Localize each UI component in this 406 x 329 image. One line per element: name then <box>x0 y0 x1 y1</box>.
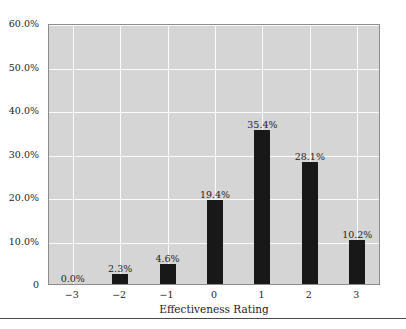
bar-chart-figure: 010.0%20.0%30.0%40.0%50.0%60.0% 0.0%2.3%… <box>0 0 406 329</box>
gridline-horizontal <box>49 112 379 113</box>
bar-value-label: 28.1% <box>287 152 333 162</box>
y-axis-tick-label: 40.0% <box>9 106 44 116</box>
gridline-vertical <box>120 25 121 284</box>
y-axis-tick-label: 30.0% <box>9 150 44 160</box>
gridline-vertical <box>168 25 169 284</box>
bar <box>207 200 223 284</box>
bar <box>302 162 318 284</box>
bar <box>254 130 270 284</box>
x-axis-tick-label: 1 <box>241 290 281 300</box>
bar-value-label: 4.6% <box>145 254 191 264</box>
bar-value-label: 0.0% <box>50 274 96 284</box>
bar-value-label: 2.3% <box>97 264 143 274</box>
x-axis-tick-label: −2 <box>99 290 139 300</box>
bottom-divider <box>0 318 406 319</box>
y-axis-tick-label: 20.0% <box>9 193 44 203</box>
y-axis-tick-label: 60.0% <box>9 19 44 29</box>
gridline-horizontal <box>49 69 379 70</box>
y-axis-tick-label: 50.0% <box>9 63 44 73</box>
y-axis-tick-label: 0 <box>33 280 44 290</box>
plot-area: 0.0%2.3%4.6%19.4%35.4%28.1%10.2% <box>48 24 380 285</box>
bar <box>112 274 128 284</box>
gridline-vertical <box>73 25 74 284</box>
y-axis-tick-labels: 010.0%20.0%30.0%40.0%50.0%60.0% <box>0 24 44 285</box>
bar <box>349 240 365 284</box>
bar-value-label: 10.2% <box>334 230 380 240</box>
x-axis-tick-label: 0 <box>194 290 234 300</box>
bar-value-label: 35.4% <box>239 120 285 130</box>
x-axis-tick-label: −1 <box>147 290 187 300</box>
bar-value-label: 19.4% <box>192 190 238 200</box>
x-axis-tick-labels: −3−2−10123 <box>48 290 380 302</box>
x-axis-title: Effectiveness Rating <box>48 303 380 315</box>
x-axis-tick-label: 3 <box>336 290 376 300</box>
bar <box>160 264 176 284</box>
x-axis-tick-label: 2 <box>289 290 329 300</box>
y-axis-tick-label: 10.0% <box>9 237 44 247</box>
gridline-horizontal <box>49 25 379 26</box>
x-axis-tick-label: −3 <box>52 290 92 300</box>
